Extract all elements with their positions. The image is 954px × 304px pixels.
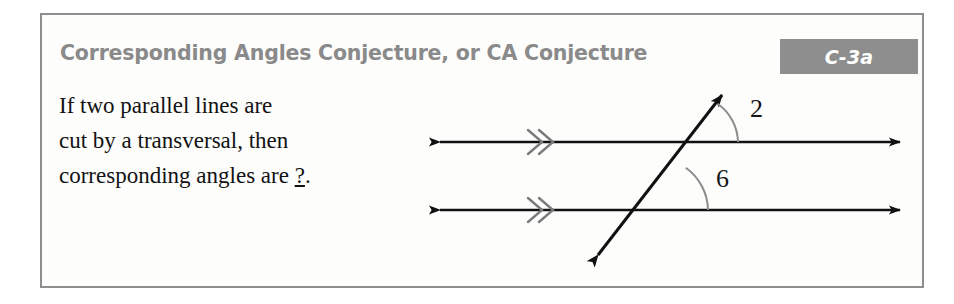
parallel-line-top <box>440 130 900 154</box>
angle-6-label: 6 <box>716 164 729 193</box>
angle-6-arc <box>686 168 708 210</box>
parallel-line-bottom <box>440 198 900 222</box>
diagram-svg: 2 6 <box>420 75 920 275</box>
conjecture-id-badge: C-3a <box>780 39 918 74</box>
statement-line-2: cut by a transversal, then <box>59 123 419 158</box>
parallel-lines-diagram: 2 6 <box>420 75 920 275</box>
statement-line-3-suffix: . <box>305 163 311 188</box>
angle-2-label: 2 <box>750 94 763 123</box>
statement-line-1: If two parallel lines are <box>59 88 419 123</box>
statement-line-3: corresponding angles are ?. <box>59 158 419 193</box>
angle-2-arc <box>718 104 738 142</box>
conjecture-statement: If two parallel lines are cut by a trans… <box>59 88 419 193</box>
badge-label: C-3a <box>825 46 874 68</box>
statement-blank: ? <box>295 163 305 188</box>
statement-line-3-prefix: corresponding angles are <box>59 163 295 188</box>
transversal-line <box>598 95 722 255</box>
figure-scene: Corresponding Angles Conjecture, or CA C… <box>0 0 954 304</box>
page-title: Corresponding Angles Conjecture, or CA C… <box>60 38 647 68</box>
transversal-segment <box>598 95 722 255</box>
